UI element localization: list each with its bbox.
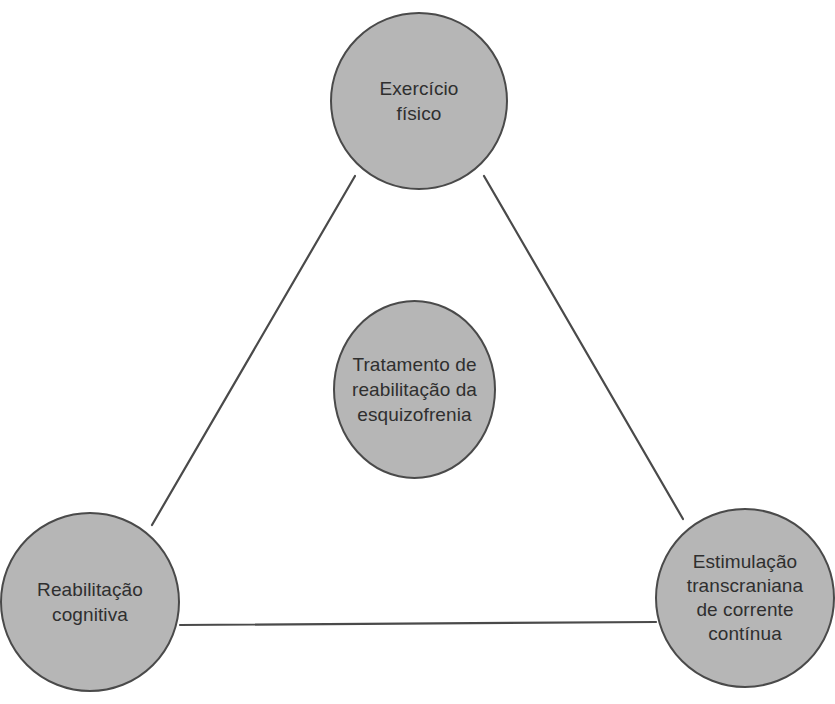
- node-treatment-center: Tratamento de reabilitação da esquizofre…: [333, 300, 496, 479]
- edge-exercise-cognitive: [152, 176, 355, 525]
- node-cognitive-rehabilitation-label: Reabilitação cognitiva: [29, 577, 151, 627]
- node-cognitive-rehabilitation: Reabilitação cognitiva: [0, 512, 180, 692]
- edge-cognitive-tdcs: [180, 622, 656, 625]
- node-exercise-label: Exercício físico: [371, 76, 466, 126]
- node-tdcs: Estimulação transcraniana de corrente co…: [655, 508, 835, 688]
- diagram-canvas: Exercício físico Tratamento de reabilita…: [0, 0, 835, 704]
- node-treatment-center-label: Tratamento de reabilitação da esquizofre…: [344, 352, 485, 427]
- node-tdcs-label: Estimulação transcraniana de corrente co…: [679, 550, 811, 646]
- node-exercise: Exercício físico: [330, 12, 508, 190]
- edge-exercise-tdcs: [484, 176, 683, 519]
